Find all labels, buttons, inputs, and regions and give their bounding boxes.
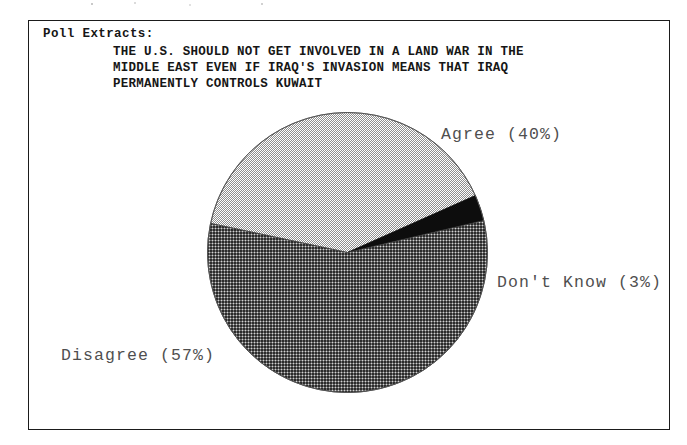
pie-chart <box>206 111 489 394</box>
pie-label-agree: Agree (40%) <box>441 125 562 144</box>
heading-block: Poll Extracts: THE U.S. SHOULD NOT GET I… <box>43 27 653 92</box>
question-line-2: MIDDLE EAST EVEN IF IRAQ'S INVASION MEAN… <box>113 60 653 76</box>
pie-chart-svg <box>206 111 489 394</box>
poll-extracts-label: Poll Extracts: <box>43 27 653 41</box>
question-line-3: PERMANENTLY CONTROLS KUWAIT <box>113 76 653 92</box>
chart-frame: Poll Extracts: THE U.S. SHOULD NOT GET I… <box>28 20 670 430</box>
question-line-1: THE U.S. SHOULD NOT GET INVOLVED IN A LA… <box>113 44 653 60</box>
scan-artifact <box>0 0 687 14</box>
pie-label-dont-know: Don't Know (3%) <box>497 273 662 292</box>
poll-question-text: THE U.S. SHOULD NOT GET INVOLVED IN A LA… <box>113 44 653 92</box>
pie-label-disagree: Disagree (57%) <box>61 346 215 365</box>
